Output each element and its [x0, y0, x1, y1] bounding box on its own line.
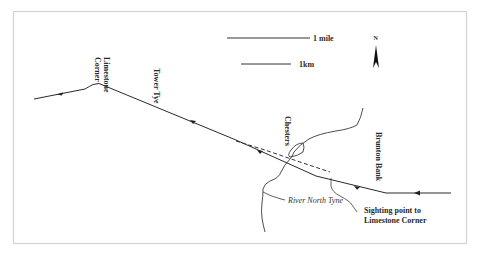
- label-chesters: Chesters: [283, 116, 292, 146]
- scale-bar-mile-label: 1 mile: [313, 34, 334, 43]
- north-label: N: [374, 35, 379, 41]
- label-limestone-corner-2: Corner: [93, 57, 102, 82]
- label-sighting-point-2: Limestone Corner: [364, 216, 427, 225]
- label-sighting-point-1: Sighting point to: [364, 206, 421, 215]
- label-river-north-tyne: River North Tyne: [287, 196, 343, 205]
- scale-bar-km-label: 1km: [299, 60, 314, 69]
- label-tower-tye: Tower Tye: [152, 68, 161, 104]
- map-canvas: 1 mile 1km N Limestone Corner Tower Tye …: [0, 0, 478, 257]
- label-limestone-corner-1: Limestone: [102, 57, 111, 93]
- label-brunton-bank: Brunton Bank: [374, 132, 383, 182]
